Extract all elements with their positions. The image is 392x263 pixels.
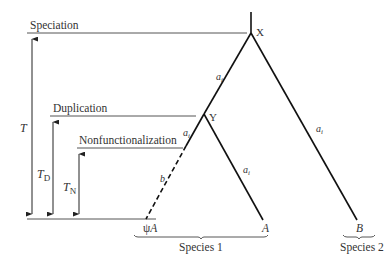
species1-brace: [134, 235, 268, 239]
rate-label-x-y: ai: [216, 71, 223, 84]
gene-tree-diagram: Speciation Duplication Nonfunctionalizat…: [0, 0, 392, 263]
branch-x-to-b: [251, 33, 357, 220]
leaf-a-label: A: [261, 222, 270, 234]
rate-label-y-psi-upper: ai: [183, 127, 190, 140]
species2-label: Species 2: [340, 241, 384, 254]
t-total-label: T: [20, 121, 28, 135]
t-d-label: TD: [37, 167, 51, 183]
rate-label-x-b: ai: [316, 123, 323, 136]
branch-x-to-y: [204, 33, 251, 114]
rate-label-y-a: ai: [243, 164, 250, 177]
node-y-label: Y: [209, 111, 217, 123]
species2-brace: [343, 235, 375, 239]
duplication-label: Duplication: [53, 102, 108, 115]
t-n-label: TN: [63, 180, 77, 196]
leaf-psi-a-label: ψA: [143, 222, 158, 235]
node-x-label: X: [256, 26, 264, 38]
species1-label: Species 1: [179, 241, 223, 254]
speciation-label: Speciation: [30, 19, 79, 32]
branch-y-to-psi-solid: [186, 114, 204, 146]
leaf-b-label: B: [356, 222, 363, 234]
rate-label-y-psi-lower: b: [160, 173, 165, 184]
nonfunctionalization-label: Nonfunctionalization: [79, 134, 177, 146]
branch-y-to-psi-dashed: [146, 146, 186, 219]
branch-y-to-a: [204, 114, 263, 220]
